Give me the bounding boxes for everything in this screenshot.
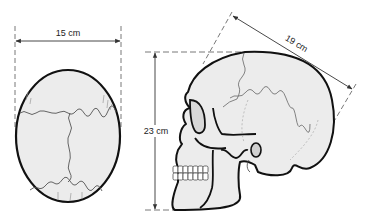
skull-outline-top <box>16 70 120 202</box>
ear-canal <box>251 143 261 157</box>
skull-diagram: 15 cm 23 cm 19 cm <box>0 0 374 216</box>
height-label: 23 cm <box>144 126 169 136</box>
length-label: 19 cm <box>283 33 309 54</box>
top-view-skull: 15 cm <box>15 26 121 202</box>
side-view-skull: 23 cm 19 cm <box>141 12 356 210</box>
width-label: 15 cm <box>56 28 81 38</box>
teeth <box>173 166 208 180</box>
